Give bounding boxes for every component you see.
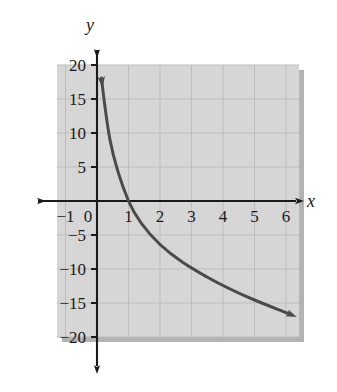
x-tick-label-3: 3 [187,207,196,226]
coordinate-plane-svg: 20 15 10 5 −5 −10 −15 −20 −1 0 1 2 3 4 5… [0,0,337,392]
x-tick-label-6: 6 [282,207,291,226]
y-tick-label-neg15: −15 [59,294,86,313]
x-tick-label-0: 0 [84,207,93,226]
x-tick-label-4: 4 [219,207,228,226]
y-axis-label: y [84,15,94,35]
y-tick-label-15: 15 [69,90,86,109]
y-tick-label-20: 20 [69,56,86,75]
x-tick-label-5: 5 [250,207,259,226]
x-tick-label-neg1: −1 [56,207,74,226]
x-tick-label-2: 2 [156,207,165,226]
y-tick-label-neg5: −5 [68,226,86,245]
y-tick-label-5: 5 [78,158,87,177]
y-tick-label-10: 10 [69,124,86,143]
y-tick-label-neg20: −20 [59,328,86,347]
y-tick-label-neg10: −10 [59,260,86,279]
x-axis-label: x [306,191,315,211]
graph-figure: 20 15 10 5 −5 −10 −15 −20 −1 0 1 2 3 4 5… [0,0,337,392]
